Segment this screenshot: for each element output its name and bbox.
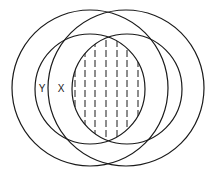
circle-outer-right	[48, 10, 204, 166]
venn-diagram: Y X	[0, 0, 216, 177]
venn-labels: Y X	[39, 83, 65, 94]
shaded-intersection-region	[75, 20, 138, 160]
label-y: Y	[39, 83, 46, 94]
label-x: X	[58, 83, 65, 94]
circle-inner-left	[35, 34, 145, 144]
